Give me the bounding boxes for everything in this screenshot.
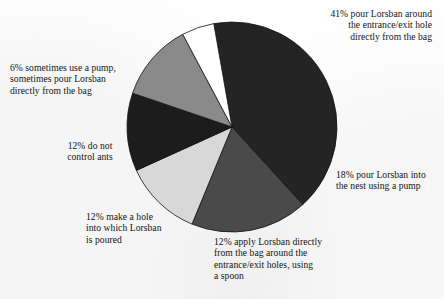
slice-label-make-a-hole: 12% make a hole into which Lorsban is po… <box>86 211 216 245</box>
slice-label-do-not-control: 12% do not control ants <box>46 140 134 163</box>
slice-label-apply-with-spoon: 12% apply Lorsban directly from the bag … <box>214 236 364 281</box>
pie-chart-figure: 41% pour Lorsban around the entrance/exi… <box>0 0 444 299</box>
slice-label-pour-into-nest-pump: 18% pour Lorsban into the nest using a p… <box>336 169 442 192</box>
slice-label-pour-around-hole: 41% pour Lorsban around the entrance/exi… <box>252 8 432 42</box>
slice-label-sometimes-pump: 6% sometimes use a pump, sometimes pour … <box>10 62 160 96</box>
